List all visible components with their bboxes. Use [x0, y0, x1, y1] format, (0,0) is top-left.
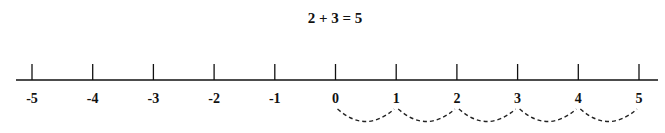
tick-label: 0 — [332, 91, 339, 106]
hop-arc — [398, 109, 455, 122]
tick-label: 5 — [636, 91, 643, 106]
tick-label: -3 — [148, 91, 160, 106]
hop-arc — [520, 109, 577, 122]
hop-arc — [338, 109, 395, 122]
equation-title: 2 + 3 = 5 — [308, 10, 363, 26]
tick-label: -1 — [269, 91, 281, 106]
tick-label: 3 — [514, 91, 521, 106]
hop-arc — [459, 109, 516, 122]
tick-labels: -5-4-3-2-1012345 — [26, 91, 642, 106]
tick-label: 4 — [575, 91, 582, 106]
tick-label: 2 — [453, 91, 460, 106]
hop-arcs — [338, 109, 638, 122]
tick-marks — [32, 64, 639, 80]
hop-arc — [580, 109, 637, 122]
tick-label: -4 — [87, 91, 99, 106]
number-line-diagram: 2 + 3 = 5 -5-4-3-2-1012345 — [0, 0, 665, 133]
tick-label: -2 — [208, 91, 220, 106]
tick-label: 1 — [393, 91, 400, 106]
tick-label: -5 — [26, 91, 38, 106]
